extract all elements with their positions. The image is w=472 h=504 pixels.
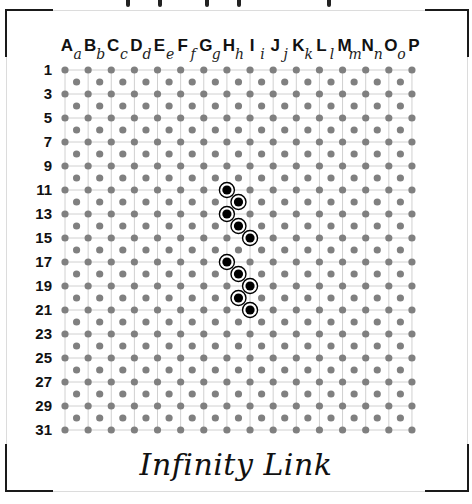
grid-dot: [154, 282, 161, 289]
grid-dot: [281, 246, 288, 253]
grid-dot: [119, 342, 126, 349]
grid-dot: [281, 318, 288, 325]
grid-dot: [385, 426, 392, 433]
grid-dot: [96, 318, 103, 325]
grid-dot: [177, 66, 184, 73]
grid-dot: [189, 78, 196, 85]
grid-dot: [212, 414, 219, 421]
grid-dot: [293, 234, 300, 241]
grid-dot: [351, 126, 358, 133]
grid-dot: [73, 174, 80, 181]
grid-dot: [200, 330, 207, 337]
grid-dot: [131, 354, 138, 361]
grid-dot: [397, 222, 404, 229]
grid-dot: [408, 66, 415, 73]
grid-dot: [212, 198, 219, 205]
grid-dot: [304, 294, 311, 301]
grid-dot: [212, 342, 219, 349]
grid-dot: [339, 258, 346, 265]
grid-dot: [154, 306, 161, 313]
grid-dot: [408, 306, 415, 313]
grid-dot: [119, 414, 126, 421]
grid-dot: [374, 270, 381, 277]
grid-dot: [351, 414, 358, 421]
grid-dot: [165, 246, 172, 253]
grid-dot: [235, 150, 242, 157]
grid-dot: [235, 78, 242, 85]
grid-dot: [61, 426, 68, 433]
grid-dot: [212, 126, 219, 133]
dot-grid: [0, 0, 472, 504]
grid-dot: [142, 294, 149, 301]
grid-dot: [165, 414, 172, 421]
grid-dot: [73, 150, 80, 157]
grid-dot: [385, 114, 392, 121]
grid-dot: [108, 426, 115, 433]
grid-dot: [177, 330, 184, 337]
grid-dot: [108, 186, 115, 193]
grid-dot: [165, 366, 172, 373]
grid-dot: [85, 234, 92, 241]
grid-dot: [293, 354, 300, 361]
grid-dot: [61, 306, 68, 313]
grid-dot: [281, 342, 288, 349]
grid-dot: [189, 414, 196, 421]
grid-dot: [374, 198, 381, 205]
grid-dot: [316, 234, 323, 241]
grid-dot: [270, 186, 277, 193]
grid-dot: [397, 150, 404, 157]
marked-stone: [234, 197, 243, 206]
grid-dot: [165, 318, 172, 325]
grid-dot: [339, 114, 346, 121]
grid-dot: [61, 114, 68, 121]
grid-dot: [154, 234, 161, 241]
grid-dot: [142, 150, 149, 157]
grid-dot: [96, 198, 103, 205]
grid-dot: [108, 138, 115, 145]
grid-dot: [270, 426, 277, 433]
grid-dot: [316, 402, 323, 409]
grid-dot: [408, 186, 415, 193]
grid-dot: [108, 66, 115, 73]
grid-dot: [246, 258, 253, 265]
grid-dot: [316, 114, 323, 121]
grid-dot: [246, 138, 253, 145]
grid-dot: [304, 318, 311, 325]
grid-dot: [339, 426, 346, 433]
grid-dot: [189, 222, 196, 229]
grid-dot: [189, 318, 196, 325]
grid-dot: [212, 222, 219, 229]
grid-dot: [85, 114, 92, 121]
grid-dot: [316, 354, 323, 361]
grid-dot: [362, 378, 369, 385]
grid-dot: [119, 366, 126, 373]
grid-dot: [327, 150, 334, 157]
grid-dot: [339, 234, 346, 241]
grid-dot: [73, 390, 80, 397]
grid-dot: [397, 78, 404, 85]
grid-dot: [374, 102, 381, 109]
grid-dot: [397, 318, 404, 325]
grid-dot: [397, 366, 404, 373]
grid-dot: [362, 138, 369, 145]
grid-dot: [212, 270, 219, 277]
grid-dot: [293, 162, 300, 169]
grid-dot: [200, 210, 207, 217]
grid-dot: [374, 390, 381, 397]
grid-dot: [223, 114, 230, 121]
grid-dot: [200, 258, 207, 265]
grid-dot: [385, 378, 392, 385]
grid-dot: [108, 162, 115, 169]
grid-dot: [96, 78, 103, 85]
grid-dot: [212, 294, 219, 301]
grid-dot: [73, 366, 80, 373]
grid-dot: [61, 138, 68, 145]
grid-dot: [339, 90, 346, 97]
grid-dot: [189, 150, 196, 157]
grid-dot: [408, 282, 415, 289]
grid-dot: [131, 306, 138, 313]
grid-dot: [142, 342, 149, 349]
grid-dot: [108, 378, 115, 385]
grid-dot: [351, 222, 358, 229]
grid-dot: [177, 306, 184, 313]
